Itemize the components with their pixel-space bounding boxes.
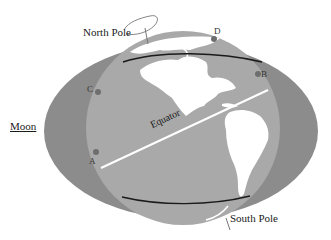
moon-label: Moon (10, 121, 36, 132)
point-b-label: B (261, 70, 267, 79)
point-c-marker (95, 89, 101, 95)
south-pole-label: South Pole (230, 213, 278, 224)
tidal-diagram: North Pole South Pole Moon Equator A B C… (0, 0, 331, 240)
point-c-label: C (87, 85, 93, 94)
point-d-marker (211, 36, 217, 42)
point-a-marker (93, 149, 99, 155)
point-a-label: A (89, 157, 96, 166)
point-d-label: D (214, 27, 221, 36)
north-pole-label: North Pole (83, 27, 131, 38)
